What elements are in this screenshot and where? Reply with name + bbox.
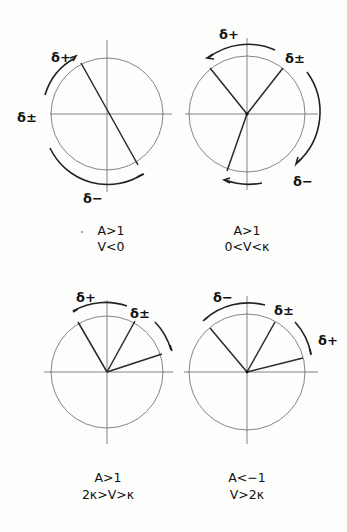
label-delta-minus: δ− (83, 191, 103, 206)
phase-diagram-figure: δ+ δ± δ− A>1 V<0 δ+ δ± δ− A>1 0<V<κ (0, 0, 347, 532)
diagram-4: δ− δ± δ+ A<−1 V>2κ (184, 290, 338, 502)
label-delta-pm: δ± (285, 51, 305, 66)
label-delta-pm: δ± (17, 110, 37, 125)
arc-delta-plus (295, 322, 311, 354)
label-delta-minus: δ− (293, 174, 313, 189)
caption-line-2: 2κ>V>κ (82, 487, 135, 502)
ray-line (247, 358, 303, 372)
arrow-head-icon (203, 317, 208, 321)
caption-line-2: 0<V<κ (225, 239, 270, 254)
arrow-head-icon (296, 157, 301, 164)
arc-delta-pm (155, 322, 171, 350)
label-delta-minus: δ− (213, 290, 233, 305)
ray-line (247, 322, 275, 372)
ray-line (247, 68, 283, 114)
caption-line-2: V>2κ (230, 487, 265, 502)
label-delta-plus: δ+ (51, 50, 71, 65)
caption-line-1: A>1 (234, 223, 261, 238)
caption-line-1: A>1 (95, 470, 122, 485)
arrow-head-icon (207, 54, 214, 59)
arrow-head-icon (137, 174, 144, 177)
label-delta-pm: δ± (130, 306, 150, 321)
origin-point (245, 112, 248, 115)
origin-point (246, 371, 249, 374)
ray-line (210, 68, 247, 114)
arc-bottom (225, 180, 262, 184)
arrow-head-icon (310, 349, 311, 355)
caption-line-2: V<0 (98, 239, 125, 254)
ray-line (210, 328, 247, 372)
diagram-3: δ+ δ± A>1 2κ>V>κ (44, 290, 173, 502)
label-delta-plus: δ+ (76, 290, 96, 305)
label-delta-pm: δ± (274, 303, 294, 318)
ray-line (227, 114, 247, 171)
arc-delta-minus (297, 72, 320, 163)
ray-line (78, 322, 107, 372)
label-delta-plus: δ+ (318, 333, 338, 348)
diagram-1: δ+ δ± δ− A>1 V<0 (17, 40, 172, 254)
caption-line-1: A>1 (98, 223, 125, 238)
diagram-2: δ+ δ± δ− A>1 0<V<κ (185, 27, 320, 254)
arc-delta-minus (204, 303, 265, 320)
stray-dot (81, 231, 83, 233)
arc-delta-minus (50, 148, 143, 185)
caption-line-1: A<−1 (228, 470, 265, 485)
label-delta-plus: δ+ (219, 27, 239, 42)
